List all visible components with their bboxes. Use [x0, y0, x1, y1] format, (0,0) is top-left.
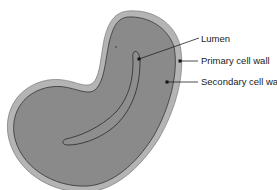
label-lumen: Lumen [201, 34, 230, 44]
label-primary-cell-wall: Primary cell wall [201, 56, 270, 66]
secondary-cell-wall-shape [14, 17, 176, 186]
lumen-pointer-dot [138, 58, 141, 61]
speck [115, 46, 117, 48]
label-secondary-cell-wall: Secondary cell wall [201, 77, 277, 87]
primary-pointer-dot [179, 60, 182, 63]
cell-wall-diagram: Lumen Primary cell wall Secondary cell w… [0, 0, 277, 190]
cell-illustration [0, 0, 277, 190]
secondary-pointer-dot [166, 81, 169, 84]
